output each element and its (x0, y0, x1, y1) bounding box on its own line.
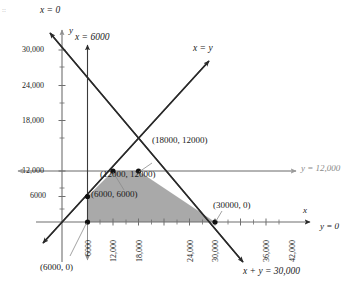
y-tick-label-30000: 30,000 (22, 46, 44, 54)
y-tick-label-18000: 18,000 (22, 117, 44, 125)
vertex-label-12000-12000: (12000, 12000) (100, 170, 156, 179)
y-axis (59, 30, 66, 262)
label-y-equals-0: y = 0 (320, 222, 339, 231)
vertex-label-6000-0: (6000, 0) (40, 263, 73, 272)
label-x-plus-y-equals-30000: x + y = 30,000 (243, 267, 300, 277)
x-tick-label-6000: 6000 (85, 240, 93, 256)
line-x-plus-y-equals-30000 (50, 33, 243, 262)
y-axis-variable-label: y (69, 26, 73, 35)
y-tick-label-24000: 24,000 (22, 82, 44, 90)
x-axis-variable-label: x (303, 206, 307, 215)
x-tick-label-30000: 30,000 (212, 240, 220, 262)
vertex-label-6000-6000: (6000, 6000) (91, 190, 138, 199)
label-y-equals-12000: y = 12,000 (301, 164, 340, 173)
y-tick-label-6000: 6000 (30, 192, 46, 200)
y-tick-label-12000: 12,000 (22, 167, 44, 175)
x-tick-label-36000: 36,000 (263, 240, 271, 262)
x-tick-label-42000: 42,000 (289, 240, 297, 262)
x-tick-label-18000: 18,000 (136, 240, 144, 262)
x-tick-label-12000: 12,000 (110, 240, 118, 262)
label-x-equals-0: x = 0 (40, 6, 60, 16)
linear-programming-graph: :: (0, 0, 348, 285)
vertex-label-30000-0: (30000, 0) (213, 201, 251, 210)
label-x-equals-6000: x = 6000 (75, 33, 109, 43)
label-x-equals-y: x = y (193, 44, 213, 54)
x-tick-label-24000: 24,000 (187, 240, 195, 262)
vertex-label-18000-12000: (18000, 12000) (152, 136, 208, 145)
